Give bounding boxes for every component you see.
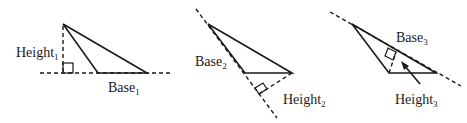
base-3-label: Base3 [396, 30, 428, 47]
triangle-2-panel: Base2 Height2 [195, 9, 326, 118]
triangle-3-panel: Base3 Height3 [330, 12, 461, 109]
height-1-label: Height1 [16, 45, 59, 62]
height-2-label: Height2 [283, 92, 326, 109]
triangle-3 [352, 24, 436, 73]
right-angle-marker-2 [255, 83, 267, 94]
base-1-label: Base1 [108, 80, 140, 97]
right-angle-marker-1 [63, 63, 73, 73]
base-2-label: Base2 [195, 54, 227, 71]
triangle-1-panel: Height1 Base1 [16, 24, 172, 97]
triangle-heights-diagram: Height1 Base1 Base2 Height2 Base3 Height… [0, 0, 467, 123]
triangle-1 [63, 24, 147, 73]
height-3-label: Height3 [395, 92, 438, 109]
